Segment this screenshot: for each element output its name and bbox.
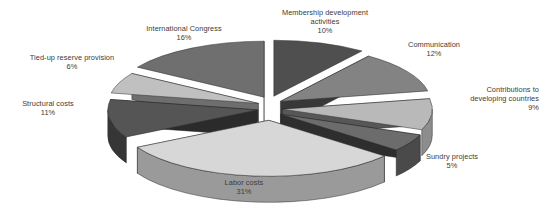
slice-label-sundry-projects: Sundry projects 5%	[402, 152, 502, 170]
slice-label-membership-development-activities: Membership development activities 10%	[255, 8, 395, 36]
slice-label-communication: Communication 12%	[379, 40, 489, 58]
slice-label-labor-costs: Labor costs 31%	[189, 178, 299, 196]
slice-label-contributions-to-developing-countries: Contributions to developing countries 9%	[451, 85, 539, 113]
slice-label-tied-up-reserve-provision: Tied-up reserve provision 6%	[10, 53, 134, 71]
pie-chart-figure: Membership development activities 10% Co…	[0, 0, 541, 208]
slice-label-structural-costs: Structural costs 11%	[6, 99, 90, 117]
slice-label-international-congress: International Congress 16%	[126, 24, 242, 42]
